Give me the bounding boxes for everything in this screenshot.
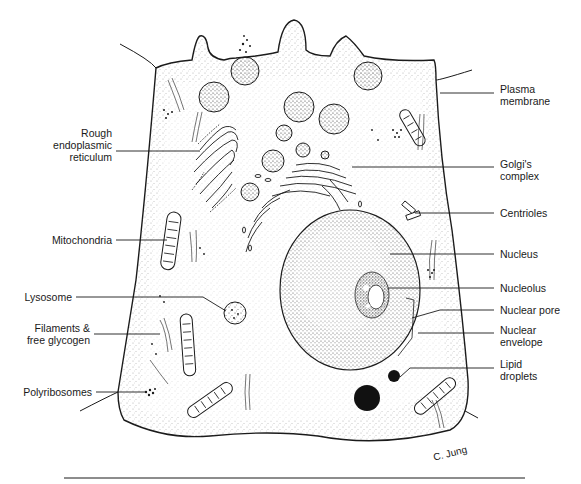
label-nucleus: Nucleus bbox=[500, 248, 538, 260]
lipid-droplet-large bbox=[354, 385, 380, 411]
label-plasma-membrane: Plasma membrane bbox=[500, 83, 550, 107]
neighbor-membrane bbox=[120, 44, 156, 68]
label-nuclear-envelope: Nuclear envelope bbox=[500, 324, 543, 348]
label-filaments-glycogen: Filaments & free glycogen bbox=[8, 322, 90, 346]
label-lipid-droplets: Lipid droplets bbox=[500, 358, 537, 382]
label-rough-er: Rough endoplasmic reticulum bbox=[8, 127, 112, 163]
cell-diagram: Rough endoplasmic reticulum Mitochondria… bbox=[0, 0, 581, 484]
nucleus bbox=[280, 210, 420, 370]
label-lysosome: Lysosome bbox=[8, 291, 72, 303]
label-centrioles: Centrioles bbox=[500, 207, 547, 219]
label-polyribosomes: Polyribosomes bbox=[8, 386, 92, 398]
lysosome bbox=[224, 302, 246, 324]
lipid-droplet-small bbox=[388, 370, 400, 382]
label-nucleolus: Nucleolus bbox=[500, 282, 546, 294]
label-nuclear-pore: Nuclear pore bbox=[500, 304, 560, 316]
label-mitochondria: Mitochondria bbox=[8, 234, 112, 246]
label-golgi-complex: Golgi's complex bbox=[500, 158, 539, 182]
